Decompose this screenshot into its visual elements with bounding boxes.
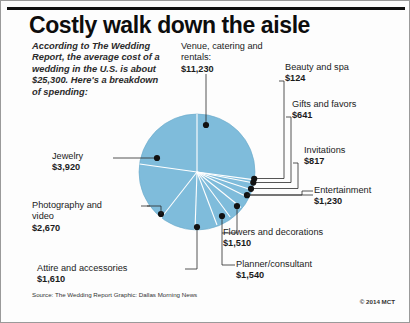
label-beauty: Beauty and spa $124: [285, 62, 405, 85]
label-jewelry-name: Jewelry: [52, 151, 112, 162]
label-invitations: Invitations $817: [304, 145, 404, 168]
label-photography-name2: video: [32, 211, 137, 222]
dot-gifts: [250, 180, 256, 186]
label-beauty-name: Beauty and spa: [285, 62, 405, 73]
label-planner-value: $1,540: [236, 270, 356, 281]
dot-invitations: [248, 186, 254, 192]
dot-jewelry: [154, 155, 160, 161]
source-line: Source: The Wedding Report: [32, 291, 112, 298]
graphic-line: Graphic: Dallas Morning News: [114, 291, 198, 298]
label-photography: Photography and video $2,670: [32, 200, 137, 234]
label-gifts: Gifts and favors $641: [292, 99, 410, 122]
label-entertainment-value: $1,230: [314, 196, 410, 207]
label-jewelry: Jewelry $3,920: [52, 151, 112, 174]
source-credit: Source: The Wedding Report Graphic: Dall…: [32, 291, 197, 299]
label-flowers-name: Flowers and decorations: [223, 227, 353, 238]
label-entertainment: Entertainment $1,230: [314, 185, 410, 208]
label-venue-value: $11,230: [181, 64, 291, 75]
dot-venue: [203, 122, 209, 128]
label-venue-name: Venue, catering and: [181, 41, 291, 52]
dot-flowers: [234, 203, 240, 209]
label-invitations-value: $817: [304, 156, 404, 167]
label-venue-name2: rentals:: [181, 52, 291, 63]
label-photography-value: $2,670: [32, 223, 137, 234]
copyright: © 2014 MCT: [360, 298, 395, 305]
label-planner: Planner/consultant $1,540: [236, 259, 356, 282]
dot-planner: [219, 213, 225, 219]
label-entertainment-name: Entertainment: [314, 185, 410, 196]
label-venue: Venue, catering and rentals: $11,230: [181, 41, 291, 75]
label-flowers: Flowers and decorations $1,510: [223, 227, 353, 250]
label-planner-name: Planner/consultant: [236, 259, 356, 270]
infographic-frame: Costly walk down the aisle According to …: [0, 0, 410, 323]
label-attire: Attire and accessories $1,610: [37, 263, 185, 286]
label-jewelry-value: $3,920: [52, 162, 112, 173]
label-invitations-name: Invitations: [304, 145, 404, 156]
label-gifts-name: Gifts and favors: [292, 99, 410, 110]
dot-attire: [194, 224, 200, 230]
label-attire-value: $1,610: [37, 274, 185, 285]
label-photography-name: Photography and: [32, 200, 137, 211]
label-gifts-value: $641: [292, 110, 410, 121]
label-flowers-value: $1,510: [223, 238, 353, 249]
label-beauty-value: $124: [285, 73, 405, 84]
label-attire-name: Attire and accessories: [37, 263, 185, 274]
